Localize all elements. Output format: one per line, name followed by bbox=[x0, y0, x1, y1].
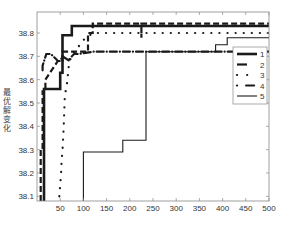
y-tick-label: 38.3 bbox=[18, 146, 34, 155]
x-tick-label: 150 bbox=[100, 204, 114, 213]
legend-label-1: 1 bbox=[260, 50, 265, 59]
y-tick-label: 38.1 bbox=[18, 192, 34, 201]
legend: 12345 bbox=[233, 47, 267, 104]
line-chart: 5010015020025030035040045050038.138.238.… bbox=[0, 0, 282, 225]
y-tick-label: 38.6 bbox=[18, 76, 34, 85]
x-tick-label: 350 bbox=[193, 204, 207, 213]
x-tick-label: 250 bbox=[146, 204, 160, 213]
y-tick-label: 38.4 bbox=[18, 122, 34, 131]
x-tick-label: 100 bbox=[77, 204, 91, 213]
x-tick-label: 450 bbox=[239, 204, 253, 213]
y-tick-label: 38.2 bbox=[18, 169, 34, 178]
y-tick-label: 38.8 bbox=[18, 29, 34, 38]
legend-label-4: 4 bbox=[260, 82, 265, 91]
plot-area bbox=[37, 12, 269, 201]
x-tick-label: 400 bbox=[216, 204, 230, 213]
x-tick-label: 50 bbox=[56, 204, 65, 213]
x-tick-label: 200 bbox=[123, 204, 137, 213]
y-tick-label: 38.7 bbox=[18, 52, 34, 61]
y-tick-label: 38.5 bbox=[18, 99, 34, 108]
x-tick-label: 500 bbox=[262, 204, 276, 213]
legend-label-5: 5 bbox=[260, 92, 265, 101]
x-tick-label: 300 bbox=[170, 204, 184, 213]
legend-label-2: 2 bbox=[260, 61, 265, 70]
legend-label-3: 3 bbox=[260, 71, 265, 80]
